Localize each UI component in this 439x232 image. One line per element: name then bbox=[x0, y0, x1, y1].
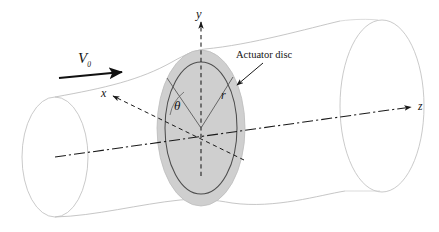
callout-leader-group bbox=[237, 63, 263, 85]
theta-label: θ bbox=[174, 98, 181, 113]
diagram-canvas: V0 y x z θ r Actuator disc bbox=[0, 0, 439, 232]
freestream-velocity-group bbox=[59, 72, 122, 78]
axis-x-label: x bbox=[100, 86, 107, 100]
actuator-disc-callout-label: Actuator disc bbox=[236, 49, 293, 60]
velocity-arrow bbox=[59, 72, 122, 78]
velocity-subscript: 0 bbox=[87, 60, 91, 69]
radius-label: r bbox=[221, 88, 226, 102]
axis-z-label: z bbox=[417, 100, 423, 112]
actuator-disc-figure: V0 y x z θ r Actuator disc bbox=[0, 0, 439, 232]
actuator-disc-leader-line bbox=[237, 63, 263, 85]
streamtube-outlet-ellipse bbox=[340, 20, 424, 192]
streamtube-upper-shade bbox=[340, 19, 378, 21]
velocity-label: V0 bbox=[78, 50, 91, 69]
axis-y-label: y bbox=[194, 7, 202, 21]
